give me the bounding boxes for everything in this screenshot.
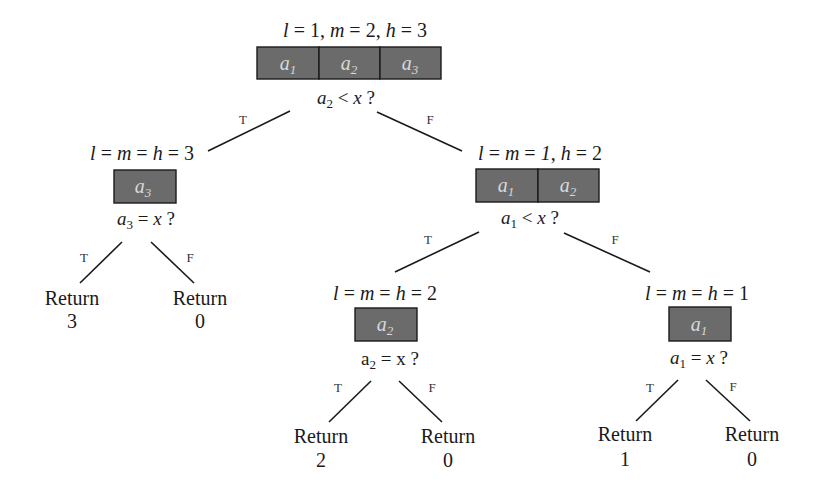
leaf-value: 2	[316, 449, 326, 471]
left-node: l = m = h = 3 a3 a3 = x ?	[90, 142, 194, 232]
leaf-return-3: Return 3	[45, 287, 99, 332]
right-left-condition: a2 = x ?	[361, 348, 419, 372]
leaf-label: Return	[421, 425, 475, 447]
left-condition: a3 = x ?	[117, 208, 175, 232]
edge-label-false: F	[428, 380, 435, 395]
right-right-header: l = m = h = 1	[645, 282, 749, 304]
edge-label-false: F	[729, 379, 736, 394]
leaf-label: Return	[45, 287, 99, 309]
edge-label-true: T	[646, 380, 654, 395]
leaf-return-0: Return 0	[173, 287, 227, 332]
edge-label-false: F	[186, 250, 193, 265]
leaf-return-0: Return 0	[421, 425, 475, 471]
root-node: l = 1, m = 2, h = 3 a1 a2 a3 a2 < x ?	[257, 19, 441, 111]
right-right-node: l = m = h = 1 a1 a1 = x ?	[645, 282, 749, 371]
edge-label-false: F	[611, 232, 618, 247]
right-right-condition: a1 = x ?	[670, 347, 728, 371]
leaf-label: Return	[725, 423, 779, 445]
root-header: l = 1, m = 2, h = 3	[283, 19, 427, 41]
right-node: l = m = 1, h = 2 a1 a2 a1 < x ?	[476, 142, 602, 231]
edge-true	[208, 111, 290, 151]
right-header: l = m = 1, h = 2	[478, 142, 602, 164]
right-condition: a1 < x ?	[501, 207, 559, 231]
right-left-node: l = m = h = 2 a2 a2 = x ?	[333, 282, 437, 372]
edge-true	[636, 380, 678, 421]
leaf-label: Return	[598, 423, 652, 445]
leaf-return-1: Return 1	[598, 423, 652, 470]
edge-label-true: T	[334, 380, 342, 395]
leaf-value: 0	[747, 448, 757, 470]
edge-label-true: T	[239, 112, 247, 127]
leaf-label: Return	[173, 287, 227, 309]
root-condition: a2 < x ?	[317, 87, 375, 111]
leaf-return-2: Return 2	[294, 425, 348, 471]
leaf-value: 0	[195, 310, 205, 332]
leaf-value: 0	[443, 449, 453, 471]
right-left-header: l = m = h = 2	[333, 282, 437, 304]
edge-false	[377, 112, 462, 151]
edge-label-true: T	[80, 250, 88, 265]
edge-label-true: T	[424, 232, 432, 247]
decision-tree-diagram: l = 1, m = 2, h = 3 a1 a2 a3 a2 < x ? T …	[0, 0, 822, 496]
left-header: l = m = h = 3	[90, 142, 194, 164]
edge-false	[706, 380, 750, 421]
edge-false	[564, 233, 650, 272]
leaf-value: 1	[620, 448, 630, 470]
edge-true	[395, 232, 479, 272]
leaf-value: 3	[67, 310, 77, 332]
leaf-return-0: Return 0	[725, 423, 779, 470]
leaf-label: Return	[294, 425, 348, 447]
edge-label-false: F	[426, 112, 433, 127]
